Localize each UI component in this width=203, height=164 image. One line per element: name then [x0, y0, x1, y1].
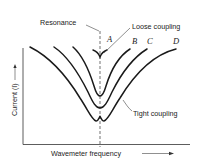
x-axis-label: Wavemeter frequency	[51, 149, 121, 158]
tight-coupling-label: Tight coupling	[133, 109, 177, 118]
resonance-label: Resonance	[40, 18, 76, 27]
curve-label-c: C	[147, 36, 153, 46]
x-axis-arrow-head	[169, 152, 174, 155]
resonance-leader	[86, 25, 99, 31]
curve-label-d: D	[172, 36, 180, 46]
coupling-resonance-diagram: Resonance Loose coupling A B C D Tight c…	[0, 0, 203, 164]
tight-coupling-leader	[123, 100, 132, 111]
y-axis-label: Current (I)	[10, 83, 19, 116]
curve-label-b: B	[132, 36, 137, 46]
y-axis-arrow-head	[13, 64, 16, 68]
loose-coupling-label: Loose coupling	[132, 22, 180, 31]
curve-label-a: A	[106, 34, 113, 44]
